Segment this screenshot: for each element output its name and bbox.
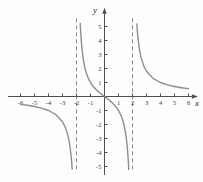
x-tick-label: -1 xyxy=(88,99,93,106)
x-tick-label: 1 xyxy=(117,99,120,106)
x-tick-label: 5 xyxy=(173,99,176,106)
x-tick-label: -5 xyxy=(32,99,37,106)
y-tick-label: -5 xyxy=(96,163,101,170)
y-tick-label: 4 xyxy=(98,37,102,44)
curve-left-branch xyxy=(21,104,73,169)
x-tick-label: -3 xyxy=(60,99,65,106)
x-tick-label: -4 xyxy=(46,99,52,106)
y-tick-label: -4 xyxy=(96,149,102,156)
y-tick-label: -2 xyxy=(96,121,101,128)
curve-right-branch xyxy=(137,24,189,89)
x-tick-label: 6 xyxy=(187,99,191,106)
y-tick-label: 2 xyxy=(98,65,101,72)
x-tick-label: 3 xyxy=(145,99,148,106)
x-tick-label: 4 xyxy=(159,99,163,106)
x-axis-label: x xyxy=(195,99,199,108)
y-tick-label: -3 xyxy=(96,135,101,142)
y-axis-label: y xyxy=(93,6,97,15)
y-tick-label: -1 xyxy=(96,107,101,114)
y-axis-arrow xyxy=(102,8,106,14)
y-tick-label: 3 xyxy=(98,51,101,58)
y-tick-label: 1 xyxy=(98,79,101,86)
y-tick-label: 5 xyxy=(98,23,101,30)
graph-canvas: -6-5-4-3-2-1123456-5-4-3-2-112345 xyxy=(0,0,203,182)
x-tick-label: 2 xyxy=(131,99,134,106)
x-tick-label: -2 xyxy=(74,99,79,106)
function-plot-figure: -6-5-4-3-2-1123456-5-4-3-2-112345 y x xyxy=(0,0,203,182)
